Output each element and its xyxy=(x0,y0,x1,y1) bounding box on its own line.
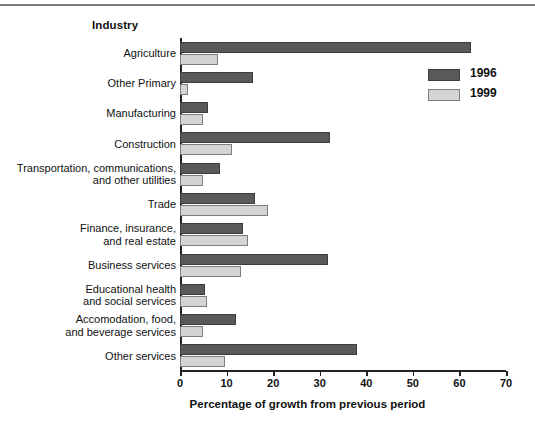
x-axis-tick-label: 10 xyxy=(220,377,232,389)
x-axis-tick xyxy=(506,371,508,376)
bar-1999 xyxy=(180,114,203,125)
top-divider-rule xyxy=(0,4,535,6)
x-axis-tick-label: 30 xyxy=(314,377,326,389)
category-label: Agriculture xyxy=(0,47,176,60)
chart-legend: 1996 1999 xyxy=(428,66,528,106)
bar-1996 xyxy=(180,223,243,234)
bar-1996 xyxy=(180,284,205,295)
category-label: Finance, insurance, and real estate xyxy=(0,222,176,247)
x-axis-tick-label: 50 xyxy=(407,377,419,389)
category-label: Accomodation, food, and beverage service… xyxy=(0,313,176,338)
legend-label-1996: 1996 xyxy=(470,66,497,80)
bar-1996 xyxy=(180,254,328,265)
legend-swatch-1999 xyxy=(428,89,460,101)
bar-chart: Industry AgricultureOther PrimaryManufac… xyxy=(0,0,535,435)
bar-1996 xyxy=(180,163,220,174)
x-axis-tick xyxy=(366,371,368,376)
bar-1999 xyxy=(180,205,268,216)
category-label: Business services xyxy=(0,259,176,272)
legend-item-1999: 1999 xyxy=(428,86,528,106)
bar-1996 xyxy=(180,102,208,113)
bar-1999 xyxy=(180,175,203,186)
bar-1996 xyxy=(180,132,330,143)
x-axis-tick-label: 0 xyxy=(177,377,183,389)
category-label: Manufacturing xyxy=(0,107,176,120)
x-axis-tick xyxy=(413,371,415,376)
legend-item-1996: 1996 xyxy=(428,66,528,86)
x-axis-tick xyxy=(320,371,322,376)
bar-1996 xyxy=(180,344,357,355)
bar-1996 xyxy=(180,72,253,83)
x-axis-tick xyxy=(180,371,182,376)
category-label-column: AgricultureOther PrimaryManufacturingCon… xyxy=(0,38,176,371)
x-axis-tick-label: 60 xyxy=(453,377,465,389)
x-axis-tick-label: 70 xyxy=(500,377,512,389)
bar-1999 xyxy=(180,54,218,65)
legend-label-1999: 1999 xyxy=(470,86,497,100)
bar-1999 xyxy=(180,266,241,277)
legend-swatch-1996 xyxy=(428,69,460,81)
x-axis-title: Percentage of growth from previous perio… xyxy=(0,398,535,410)
x-axis-tick xyxy=(227,371,229,376)
bar-1999 xyxy=(180,84,188,95)
bar-1999 xyxy=(180,356,225,367)
category-label: Construction xyxy=(0,138,176,151)
x-axis-tick-label: 20 xyxy=(267,377,279,389)
bar-1996 xyxy=(180,193,255,204)
category-label: Other services xyxy=(0,350,176,363)
x-axis-tick-label: 40 xyxy=(360,377,372,389)
y-axis-title: Industry xyxy=(92,19,138,31)
bar-1996 xyxy=(180,314,236,325)
bar-1999 xyxy=(180,235,248,246)
x-axis-tick xyxy=(273,371,275,376)
bar-1999 xyxy=(180,326,203,337)
bar-1999 xyxy=(180,144,232,155)
category-label: Other Primary xyxy=(0,77,176,90)
bar-1996 xyxy=(180,42,471,53)
category-label: Transportation, communications, and othe… xyxy=(0,162,176,187)
category-label: Educational health and social services xyxy=(0,283,176,308)
category-label: Trade xyxy=(0,198,176,211)
x-axis-tick xyxy=(459,371,461,376)
bar-1999 xyxy=(180,296,207,307)
